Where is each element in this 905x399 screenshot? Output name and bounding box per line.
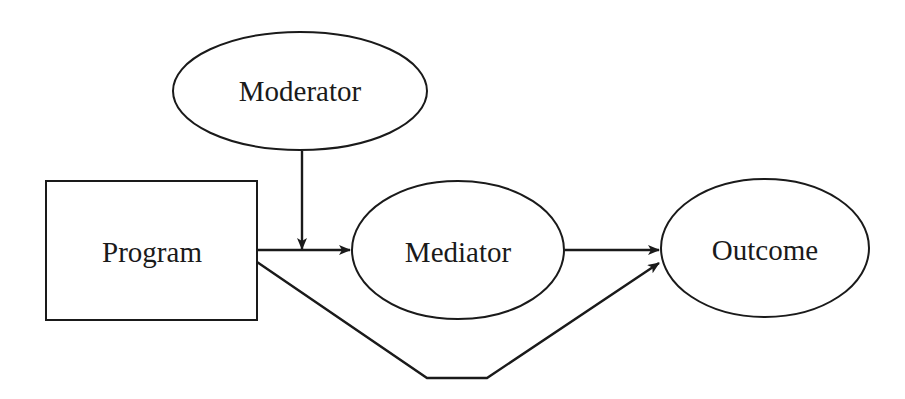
diagram-svg: Moderator Program Mediator Outcome bbox=[0, 0, 905, 399]
node-outcome: Outcome bbox=[661, 179, 869, 317]
mediator-label: Mediator bbox=[405, 236, 512, 268]
node-program: Program bbox=[46, 181, 257, 320]
diagram-canvas: Moderator Program Mediator Outcome bbox=[0, 0, 905, 399]
outcome-label: Outcome bbox=[712, 234, 818, 266]
program-label: Program bbox=[102, 236, 202, 268]
moderator-label: Moderator bbox=[239, 75, 362, 107]
node-moderator: Moderator bbox=[173, 32, 427, 150]
node-mediator: Mediator bbox=[352, 181, 564, 319]
